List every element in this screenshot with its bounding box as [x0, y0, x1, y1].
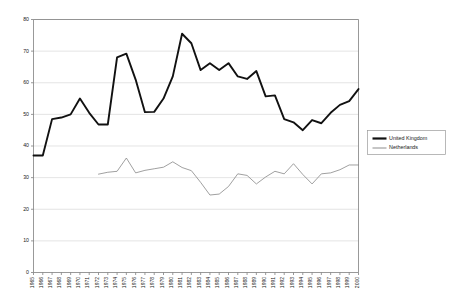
x-tick-label: 1977: [140, 277, 146, 288]
y-tick-label: 60: [23, 79, 29, 85]
x-tick-label: 1998: [335, 277, 341, 288]
x-tick-label: 1995: [307, 277, 313, 288]
x-tick-label: 1968: [56, 277, 62, 288]
axes: [31, 20, 359, 276]
x-tick-label: 1983: [196, 277, 202, 288]
x-tick-label: 1972: [94, 277, 100, 288]
x-tick-label: 1978: [149, 277, 155, 288]
x-tick-label: 1996: [316, 277, 322, 288]
chart-legend: United KingdomNetherlands: [368, 131, 446, 155]
x-tick-label: 1993: [289, 277, 295, 288]
x-tick-label: 1976: [131, 277, 137, 288]
x-tick-label: 1999: [344, 277, 350, 288]
x-tick-label: 1991: [270, 277, 276, 288]
x-tick-label: 1975: [121, 277, 127, 288]
x-tick-label: 1980: [168, 277, 174, 288]
x-tick-label: 1987: [233, 277, 239, 288]
x-tick-label: 1992: [279, 277, 285, 288]
line-chart: 01020304050607080 1965196619671968196919…: [0, 0, 449, 304]
y-tick-label: 30: [23, 174, 29, 180]
series-line-netherlands: [99, 158, 359, 195]
x-tick-label: 1989: [251, 277, 257, 288]
x-tick-label: 1982: [186, 277, 192, 288]
x-tick-label: 1973: [103, 277, 109, 288]
x-tick-label: 1966: [38, 277, 44, 288]
gridlines: [34, 20, 359, 241]
x-tick-label: 1985: [214, 277, 220, 288]
y-tick-label: 10: [23, 237, 29, 243]
x-tick-label: 1994: [298, 277, 304, 288]
x-tick-label: 1974: [112, 277, 118, 288]
legend-label-netherlands: Netherlands: [389, 144, 418, 150]
y-tick-label: 80: [23, 16, 29, 22]
x-tick-label: 1971: [84, 277, 90, 288]
y-tick-label: 0: [26, 269, 29, 275]
legend-label-united-kingdom: United Kingdom: [389, 135, 428, 141]
y-tick-label: 20: [23, 206, 29, 212]
y-axis-tick-labels: 01020304050607080: [23, 16, 29, 275]
x-tick-label: 1967: [47, 277, 53, 288]
series-line-united-kingdom: [34, 34, 359, 156]
x-tick-label: 1970: [75, 277, 81, 288]
x-tick-label: 1984: [205, 277, 211, 288]
x-tick-label: 1997: [326, 277, 332, 288]
chart-canvas: 01020304050607080 1965196619671968196919…: [0, 0, 449, 304]
x-tick-label: 1979: [159, 277, 165, 288]
x-tick-label: 1990: [261, 277, 267, 288]
x-tick-label: 1981: [177, 277, 183, 288]
x-axis-tick-labels: 1965196619671968196919701971197219731974…: [29, 277, 360, 288]
x-tick-label: 2000: [354, 277, 360, 288]
x-tick-label: 1965: [29, 277, 35, 288]
y-tick-label: 50: [23, 111, 29, 117]
x-tick-label: 1986: [224, 277, 230, 288]
y-tick-label: 70: [23, 48, 29, 54]
x-tick-label: 1988: [242, 277, 248, 288]
x-tick-label: 1969: [66, 277, 72, 288]
y-tick-label: 40: [23, 142, 29, 148]
